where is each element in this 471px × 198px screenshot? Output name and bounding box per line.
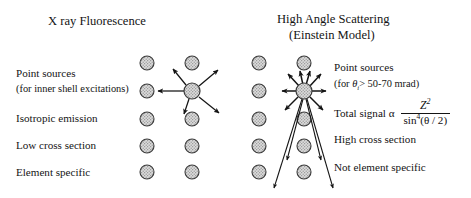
emission-arrow-south [184, 99, 189, 114]
atom [185, 56, 199, 70]
short-arrow-northeast [309, 74, 321, 87]
atom [252, 165, 266, 179]
atom [185, 112, 199, 126]
atom [140, 139, 154, 153]
atom [297, 56, 311, 70]
atom [252, 56, 266, 70]
figure-canvas: X ray Fluorescence High Angle Scattering… [0, 0, 471, 198]
emission-arrow-northeast [199, 70, 218, 86]
short-arrow-southwest [285, 97, 298, 110]
emission-arrow-northwest [173, 69, 186, 85]
atom [252, 112, 266, 126]
short-arrow-southeast [310, 97, 323, 110]
atom [297, 139, 311, 153]
atom [185, 165, 199, 179]
right-atom-lattice [252, 56, 311, 179]
atom [185, 139, 199, 153]
atom [252, 84, 266, 98]
atom [297, 165, 311, 179]
fluorescence-emitter-atom [184, 83, 200, 99]
atom [252, 139, 266, 153]
atom [140, 84, 154, 98]
diagram-vector-layer [0, 0, 471, 198]
left-atom-lattice [140, 56, 199, 179]
atom [140, 112, 154, 126]
atom [140, 165, 154, 179]
emission-arrow-southeast [199, 97, 219, 113]
atom [140, 56, 154, 70]
scattering-center-atom [296, 83, 312, 99]
